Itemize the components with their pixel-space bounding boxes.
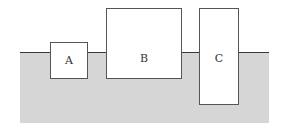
block-b-label: B [140, 52, 148, 65]
block-b: B [106, 8, 182, 79]
block-c-label: C [215, 52, 223, 65]
block-a: A [50, 42, 88, 79]
block-c: C [199, 8, 239, 105]
block-a-label: A [65, 54, 73, 67]
